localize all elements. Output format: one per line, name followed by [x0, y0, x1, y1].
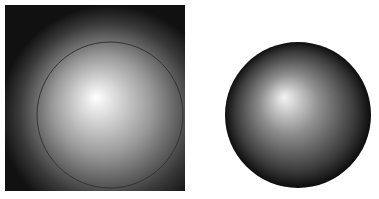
gradient-square	[5, 5, 185, 191]
gradient-figure	[0, 0, 379, 199]
right-panel	[225, 42, 371, 188]
left-panel	[5, 5, 185, 191]
shaded-sphere	[225, 42, 371, 188]
